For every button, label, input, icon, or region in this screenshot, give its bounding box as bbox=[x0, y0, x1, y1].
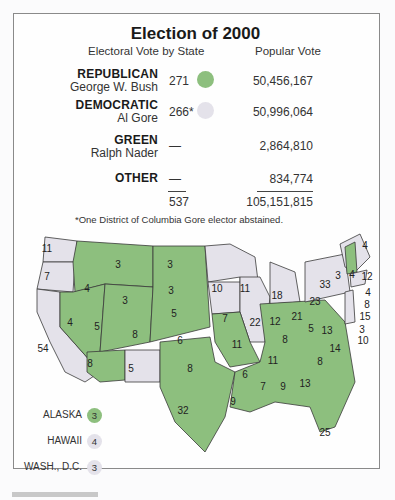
page-title: Election of 2000 bbox=[0, 24, 391, 44]
pv-democratic: 50,996,064 bbox=[253, 105, 313, 119]
pv-total-line bbox=[257, 191, 313, 192]
us-electoral-map: 11754 443 358 853 356 83210 71111 221812… bbox=[15, 232, 375, 457]
ev-total-line bbox=[168, 191, 186, 192]
svg-text:6: 6 bbox=[242, 369, 248, 380]
svg-text:11: 11 bbox=[240, 283, 251, 294]
electoral-header: Electoral Vote by State bbox=[88, 45, 204, 57]
legend-hawaii-votes: 4 bbox=[87, 434, 102, 449]
svg-text:5: 5 bbox=[94, 321, 100, 332]
svg-text:5: 5 bbox=[308, 323, 314, 334]
svg-text:22: 22 bbox=[249, 317, 261, 328]
ev-total: 537 bbox=[169, 195, 189, 209]
party-other: OTHER bbox=[115, 172, 158, 185]
svg-text:8: 8 bbox=[364, 299, 370, 310]
party-green: GREENRalph Nader bbox=[91, 134, 158, 160]
svg-text:54: 54 bbox=[37, 343, 49, 354]
svg-text:21: 21 bbox=[291, 311, 303, 322]
svg-text:8: 8 bbox=[282, 334, 288, 345]
svg-text:12: 12 bbox=[361, 271, 373, 282]
svg-text:7: 7 bbox=[222, 313, 228, 324]
ev-republican: 271 bbox=[169, 74, 189, 88]
svg-text:18: 18 bbox=[271, 290, 283, 301]
svg-text:10: 10 bbox=[357, 335, 369, 346]
svg-text:5: 5 bbox=[171, 308, 177, 319]
svg-text:33: 33 bbox=[319, 279, 331, 290]
svg-text:5: 5 bbox=[128, 363, 134, 374]
svg-text:3: 3 bbox=[335, 270, 341, 281]
svg-text:25: 25 bbox=[319, 427, 331, 438]
ev-green: — bbox=[169, 139, 181, 153]
svg-text:15: 15 bbox=[359, 311, 371, 322]
svg-text:10: 10 bbox=[211, 283, 223, 294]
legend-hawaii-label: HAWAII bbox=[47, 435, 82, 446]
legend-alaska-votes: 3 bbox=[87, 408, 102, 423]
svg-text:13: 13 bbox=[299, 378, 311, 389]
svg-text:7: 7 bbox=[44, 271, 50, 282]
svg-text:8: 8 bbox=[187, 363, 193, 374]
footnote: *One District of Columbia Gore elector a… bbox=[75, 214, 283, 225]
svg-text:3: 3 bbox=[359, 324, 365, 335]
svg-text:8: 8 bbox=[317, 356, 323, 367]
svg-text:4: 4 bbox=[84, 283, 90, 294]
svg-text:32: 32 bbox=[177, 405, 189, 416]
svg-text:3: 3 bbox=[168, 285, 174, 296]
ev-democratic: 266* bbox=[169, 105, 194, 119]
pv-total: 105,151,815 bbox=[246, 195, 313, 209]
legend-alaska-label: ALASKA bbox=[43, 409, 82, 420]
legend-dc-label: WASH., D.C. bbox=[24, 461, 82, 472]
pv-other: 834,774 bbox=[270, 172, 313, 186]
svg-text:3: 3 bbox=[115, 259, 121, 270]
pv-republican: 50,456,167 bbox=[253, 74, 313, 88]
svg-text:9: 9 bbox=[230, 396, 236, 407]
svg-text:4: 4 bbox=[349, 269, 355, 280]
svg-text:7: 7 bbox=[260, 381, 266, 392]
svg-text:13: 13 bbox=[321, 325, 333, 336]
pv-green: 2,864,810 bbox=[260, 139, 313, 153]
svg-text:12: 12 bbox=[269, 316, 281, 327]
svg-text:6: 6 bbox=[177, 335, 183, 346]
svg-text:11: 11 bbox=[268, 355, 279, 366]
svg-text:8: 8 bbox=[87, 358, 93, 369]
svg-text:4: 4 bbox=[365, 287, 371, 298]
svg-text:3: 3 bbox=[167, 259, 173, 270]
legend-dc-votes: 3 bbox=[87, 460, 102, 475]
ev-other: — bbox=[169, 172, 181, 186]
party-republican: REPUBLICANGeorge W. Bush bbox=[70, 68, 158, 94]
svg-text:23: 23 bbox=[309, 296, 321, 307]
popular-header: Popular Vote bbox=[255, 45, 321, 57]
party-democratic: DEMOCRATICAl Gore bbox=[76, 99, 158, 125]
svg-text:4: 4 bbox=[67, 317, 73, 328]
republican-swatch bbox=[197, 71, 214, 88]
svg-text:4: 4 bbox=[362, 240, 368, 251]
scroll-indicator bbox=[12, 492, 98, 497]
svg-text:8: 8 bbox=[132, 329, 138, 340]
democratic-swatch bbox=[197, 102, 214, 119]
svg-text:11: 11 bbox=[232, 339, 243, 350]
svg-text:11: 11 bbox=[42, 243, 53, 254]
svg-text:9: 9 bbox=[280, 381, 286, 392]
svg-text:3: 3 bbox=[122, 295, 128, 306]
svg-text:14: 14 bbox=[329, 343, 341, 354]
